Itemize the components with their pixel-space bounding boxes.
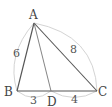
vertex-label-b: B — [4, 85, 13, 99]
vertex-label-c: C — [98, 85, 107, 99]
vertex-label-a: A — [28, 8, 38, 22]
length-label-ac: 8 — [70, 43, 77, 56]
vertex-label-d: D — [47, 95, 57, 107]
length-label-dc: 4 — [71, 93, 78, 106]
segment-ad — [34, 23, 51, 91]
triangle-diagram: A B C D 6 8 3 4 — [0, 0, 112, 107]
length-label-bd: 3 — [30, 94, 37, 107]
segment-ac — [34, 23, 97, 91]
length-label-ab: 6 — [13, 47, 20, 60]
